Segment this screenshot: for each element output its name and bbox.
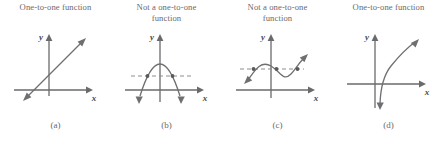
curve-arrowhead-lower-left — [244, 76, 252, 84]
y-axis-arrowhead — [268, 34, 275, 41]
panel-d-plot: y x — [333, 28, 444, 116]
panel-a-label: (a) — [0, 120, 111, 130]
panel-b-caption: Not a one-to-one function — [111, 2, 222, 23]
y-axis-label: y — [364, 32, 370, 42]
panel-d: One-to-one function y x (d) — [333, 0, 444, 148]
y-axis-label: y — [149, 32, 155, 42]
curve-logarithmic-d — [380, 42, 415, 104]
panel-b-label: (b) — [111, 120, 222, 130]
curve-arrowhead-bottom — [377, 102, 384, 110]
x-axis-label: x — [202, 93, 208, 103]
x-axis-label: x — [91, 93, 97, 103]
intersection-point — [275, 67, 279, 71]
y-axis-label: y — [38, 32, 44, 42]
intersection-point — [252, 67, 256, 71]
intersection-point — [146, 74, 150, 78]
panel-c-plot: y x — [222, 28, 333, 116]
y-axis-arrowhead — [157, 34, 164, 41]
panel-a-caption: One-to-one function — [0, 2, 111, 13]
panel-c-caption: Not a one-to-one function — [222, 2, 333, 23]
axes-b — [125, 38, 197, 102]
axes-d — [347, 38, 419, 108]
y-axis-arrowhead — [46, 34, 53, 41]
curve-arrowhead-lower-left — [136, 96, 143, 104]
panel-b: Not a one-to-one function y x (b) — [111, 0, 222, 148]
x-axis-label: x — [313, 93, 319, 103]
panel-b-plot: y x — [111, 28, 222, 116]
panel-d-caption: One-to-one function — [333, 2, 444, 13]
figure-one-to-one-functions: One-to-one function y x (a) Not a one — [0, 0, 444, 148]
intersection-point — [296, 67, 300, 71]
axes-a — [14, 38, 86, 96]
curve-arrowhead-upper-right — [411, 39, 419, 47]
curve-arrowhead-lower-right — [178, 96, 185, 104]
panel-a-plot: y x — [0, 28, 111, 116]
panel-c: Not a one-to-one function y x (c) — [222, 0, 333, 148]
y-axis-label: y — [260, 32, 266, 42]
y-axis-arrowhead — [372, 34, 379, 41]
panel-c-label: (c) — [222, 120, 333, 130]
x-axis-label: x — [424, 87, 430, 97]
intersection-point — [171, 74, 175, 78]
panel-d-label: (d) — [333, 120, 444, 130]
panel-a: One-to-one function y x (a) — [0, 0, 111, 148]
